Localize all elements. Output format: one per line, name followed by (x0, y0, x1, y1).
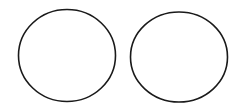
diagram-canvas (0, 0, 237, 103)
right-circle (131, 12, 228, 102)
left-circle (19, 10, 116, 102)
